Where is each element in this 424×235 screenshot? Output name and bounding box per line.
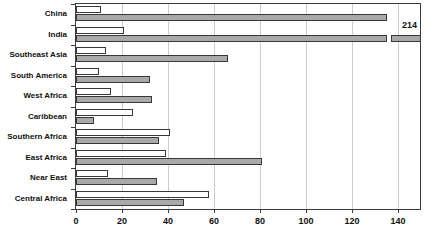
y-axis-tick <box>71 127 75 128</box>
y-axis-tick <box>71 168 75 169</box>
bar-chart: ChinaIndiaSoutheast AsiaSouth AmericaWes… <box>0 0 424 235</box>
x-axis-tick-100 <box>306 210 307 213</box>
category-label-west-africa: West Africa <box>0 91 67 100</box>
y-axis-tick <box>71 148 75 149</box>
category-label-east-africa: East Africa <box>0 153 67 162</box>
x-axis-label-60: 60 <box>199 216 229 226</box>
y-axis-tick <box>71 189 75 190</box>
bar-white-caribbean <box>76 109 133 116</box>
y-axis-tick <box>71 107 75 108</box>
bar-gray-southern-africa <box>76 137 159 144</box>
bar-gray-southeast-asia <box>76 55 228 62</box>
bar-gray-central-africa <box>76 199 184 206</box>
bar-gray-india <box>76 35 387 42</box>
category-label-southern-africa: Southern Africa <box>0 132 67 141</box>
y-axis-tick <box>71 45 75 46</box>
bar-white-china <box>76 6 101 13</box>
x-axis-label-120: 120 <box>337 216 367 226</box>
bar-gray-india-overflow <box>391 35 420 42</box>
bar-gray-near-east <box>76 178 157 185</box>
category-label-central-africa: Central Africa <box>0 194 67 203</box>
bar-white-southeast-asia <box>76 47 106 54</box>
x-axis-tick-0 <box>76 210 77 213</box>
x-axis-label-100: 100 <box>291 216 321 226</box>
bar-white-central-africa <box>76 191 209 198</box>
x-axis-tick-20 <box>122 210 123 213</box>
bar-white-india <box>76 27 124 34</box>
bar-white-near-east <box>76 170 108 177</box>
x-axis-label-0: 0 <box>61 216 91 226</box>
bar-white-east-africa <box>76 150 166 157</box>
x-axis-label-140: 140 <box>383 216 413 226</box>
x-axis-tick-80 <box>260 210 261 213</box>
x-axis-tick-40 <box>168 210 169 213</box>
category-label-south-america: South America <box>0 71 67 80</box>
bar-gray-china <box>76 14 387 21</box>
bar-white-west-africa <box>76 88 111 95</box>
bar-white-southern-africa <box>76 129 170 136</box>
bar-gray-east-africa <box>76 158 262 165</box>
x-axis-label-80: 80 <box>245 216 275 226</box>
category-label-china: China <box>0 9 67 18</box>
category-label-india: India <box>0 30 67 39</box>
category-label-caribbean: Caribbean <box>0 112 67 121</box>
y-axis-tick <box>71 209 75 210</box>
x-axis-tick-140 <box>398 210 399 213</box>
x-axis-label-40: 40 <box>153 216 183 226</box>
category-label-southeast-asia: Southeast Asia <box>0 50 67 59</box>
category-label-near-east: Near East <box>0 173 67 182</box>
bar-white-south-america <box>76 68 99 75</box>
bar-gray-south-america <box>76 76 150 83</box>
plot-area <box>75 3 421 210</box>
bar-value-annotation: 214 <box>391 20 417 30</box>
bar-gray-caribbean <box>76 117 94 124</box>
bar-gray-west-africa <box>76 96 152 103</box>
y-axis-tick <box>71 25 75 26</box>
y-axis-tick <box>71 4 75 5</box>
x-axis-tick-60 <box>214 210 215 213</box>
x-axis-tick-120 <box>352 210 353 213</box>
y-axis-tick <box>71 66 75 67</box>
x-axis-label-20: 20 <box>107 216 137 226</box>
y-axis-tick <box>71 86 75 87</box>
